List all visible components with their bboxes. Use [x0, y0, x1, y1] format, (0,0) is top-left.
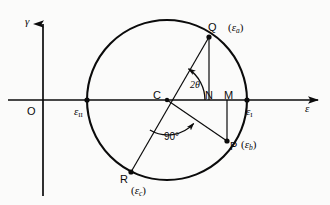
figure-canvas	[0, 0, 330, 205]
point-r-value: (εc)	[131, 185, 146, 197]
point-p-dot	[224, 138, 229, 143]
eps-two-label: εII	[74, 106, 83, 118]
point-q-dot	[206, 34, 211, 39]
eps-two-subscript: II	[78, 111, 83, 118]
point-r-dot	[128, 169, 133, 174]
angle-2theta-label: 2θ	[190, 80, 200, 90]
q-paren-close: )	[240, 21, 244, 33]
p-paren-close: )	[253, 138, 257, 150]
point-q-value: (εa)	[228, 22, 243, 34]
point-n-label: N	[205, 90, 213, 101]
eps-one-label: εI	[246, 106, 253, 118]
r-paren-close: )	[142, 184, 146, 196]
mohr-circle-figure: γ ε O εII εI C N M Q (εa) P (εb) R (εc) …	[0, 0, 330, 205]
y-axis-label: γ	[25, 16, 29, 27]
point-p-value: (εb)	[241, 139, 256, 151]
point-r-label: R	[120, 174, 128, 185]
angle-90-label: 90°	[164, 132, 179, 142]
point-eps-one-dot	[244, 97, 249, 102]
point-c-label: C	[153, 90, 161, 101]
point-p-label: P	[230, 141, 237, 152]
eps-one-subscript: I	[250, 111, 252, 118]
origin-label: O	[27, 106, 36, 117]
point-m-label: M	[224, 90, 233, 101]
point-q-label: Q	[208, 22, 217, 33]
x-axis-label: ε	[305, 103, 309, 114]
point-center-dot	[165, 98, 169, 102]
point-eps-two-dot	[84, 97, 89, 102]
diameter-qr	[131, 37, 209, 172]
